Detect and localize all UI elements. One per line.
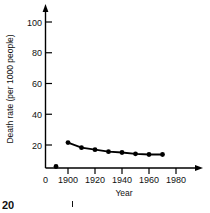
data-point-1910 bbox=[79, 145, 84, 150]
data-point-1920 bbox=[93, 147, 98, 152]
x-tick-label-1960: 1960 bbox=[139, 175, 159, 185]
y-axis-title: Death rate (per 1000 people) bbox=[5, 34, 15, 143]
data-point-1950 bbox=[133, 151, 138, 156]
data-point-1970 bbox=[160, 152, 165, 157]
origin-tick-label: 0 bbox=[43, 175, 48, 185]
x-tick-label-1920: 1920 bbox=[85, 175, 105, 185]
axis-break-marker bbox=[54, 164, 59, 169]
bottom-partial-text-artifact: 20 bbox=[2, 200, 14, 211]
bottom-partial-tick-artifact bbox=[72, 201, 73, 207]
data-point-1930 bbox=[106, 149, 111, 154]
x-axis-arrowhead-icon bbox=[195, 165, 203, 171]
death-rate-line-chart: 100 80 60 40 20 0 Death rate (per 1000 p… bbox=[0, 0, 210, 200]
y-tick-label-100: 100 bbox=[27, 18, 42, 28]
x-tick-label-1940: 1940 bbox=[112, 175, 132, 185]
data-point-1940 bbox=[120, 150, 125, 155]
x-tick-label-1980: 1980 bbox=[166, 175, 186, 185]
y-axis-arrowhead-icon bbox=[43, 4, 49, 12]
x-tick-label-1900: 1900 bbox=[58, 175, 78, 185]
y-tick-label-20: 20 bbox=[32, 141, 42, 151]
y-tick-label-60: 60 bbox=[32, 79, 42, 89]
y-tick-label-80: 80 bbox=[32, 48, 42, 58]
data-point-1900 bbox=[66, 140, 71, 145]
chart-figure: 100 80 60 40 20 0 Death rate (per 1000 p… bbox=[0, 0, 210, 213]
y-tick-label-40: 40 bbox=[32, 110, 42, 120]
x-axis-title: Year bbox=[115, 188, 132, 198]
data-point-1960 bbox=[147, 152, 152, 157]
